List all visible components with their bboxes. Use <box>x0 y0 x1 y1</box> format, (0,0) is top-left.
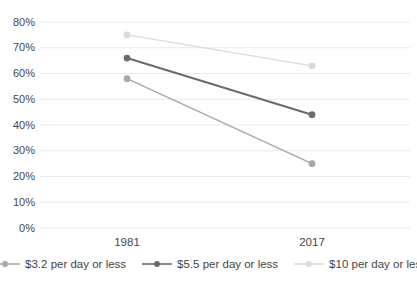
data-point-marker <box>124 55 131 62</box>
legend-line-marker-icon <box>0 259 20 269</box>
legend-item: $5.5 per day or less <box>142 258 278 270</box>
legend-label: $5.5 per day or less <box>177 258 278 270</box>
legend-line-marker-icon <box>142 259 172 269</box>
y-axis-tick-label: 50% <box>13 93 35 105</box>
y-axis-tick-label: 70% <box>13 41 35 53</box>
data-point-marker <box>124 31 131 38</box>
y-axis-tick-label: 80% <box>13 16 35 28</box>
legend-label: $10 per day or less <box>329 258 417 270</box>
legend-label: $3.2 per day or less <box>25 258 126 270</box>
y-axis-tick-label: 10% <box>13 196 35 208</box>
data-point-marker <box>309 62 316 69</box>
chart-plot-area: 0%10%20%30%40%50%60%70%80%19812017 <box>0 0 417 256</box>
line-chart: 0%10%20%30%40%50%60%70%80%19812017 $3.2 … <box>0 0 417 288</box>
y-axis-tick-label: 0% <box>19 222 35 234</box>
y-axis-tick-label: 30% <box>13 144 35 156</box>
data-point-marker <box>309 160 316 167</box>
y-axis-tick-label: 20% <box>13 170 35 182</box>
y-axis-tick-label: 40% <box>13 119 35 131</box>
legend-item: $3.2 per day or less <box>0 258 126 270</box>
data-point-marker <box>309 111 316 118</box>
series-line <box>127 58 312 115</box>
x-axis-label: 2017 <box>299 236 325 248</box>
series-line <box>127 35 312 66</box>
data-point-marker <box>124 75 131 82</box>
y-axis-tick-label: 60% <box>13 67 35 79</box>
legend: $3.2 per day or less$5.5 per day or less… <box>0 258 417 270</box>
x-axis-label: 1981 <box>114 236 140 248</box>
legend-line-marker-icon <box>294 259 324 269</box>
legend-item: $10 per day or less <box>294 258 417 270</box>
